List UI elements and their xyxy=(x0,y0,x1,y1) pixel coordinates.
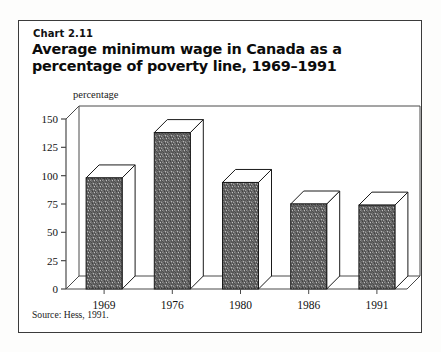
y-axis-tick-label: 0 xyxy=(53,283,59,295)
bar-1986 xyxy=(291,191,340,289)
bar-1991 xyxy=(359,192,408,289)
y-axis-tick-label: 100 xyxy=(42,170,59,182)
x-axis-tick-label: 1980 xyxy=(229,299,252,311)
x-axis-tick-label: 1991 xyxy=(365,299,388,311)
y-axis-tick-label: 75 xyxy=(47,198,59,210)
bar-1976 xyxy=(154,120,203,289)
y-axis-tick-label: 25 xyxy=(47,255,59,267)
bar-1980 xyxy=(223,169,272,289)
x-axis-tick-label: 1986 xyxy=(297,299,320,311)
y-axis-tick-label: 125 xyxy=(42,141,59,153)
bar-chart-svg: 025507510012515019691976198019861991 xyxy=(19,21,423,334)
chart-screenshot: Chart 2.11 Average minimum wage in Canad… xyxy=(0,0,441,352)
source-note: Source: Hess, 1991. xyxy=(32,309,109,320)
x-axis-tick-label: 1976 xyxy=(161,299,184,311)
bar-1969 xyxy=(86,165,135,289)
y-axis-tick-label: 150 xyxy=(42,113,59,125)
y-axis-tick-label: 50 xyxy=(47,226,59,238)
figure-frame: Chart 2.11 Average minimum wage in Canad… xyxy=(18,20,422,333)
plot-area: 025507510012515019691976198019861991 xyxy=(19,21,423,334)
